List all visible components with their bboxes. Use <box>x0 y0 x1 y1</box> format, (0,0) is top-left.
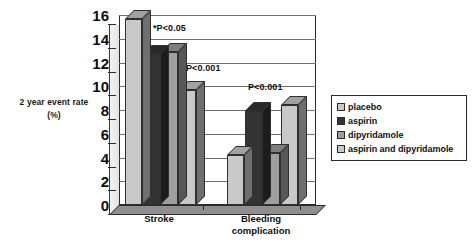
y-tick-mark <box>108 24 116 25</box>
y-tick-mark <box>108 143 116 144</box>
y-tick-mark <box>108 95 116 96</box>
bar-side-face <box>160 45 169 205</box>
bar-side-face <box>178 43 187 205</box>
y-tick-label: 10 <box>85 79 109 94</box>
bar-front-face <box>227 155 244 205</box>
p-value-annotation: P<0.001 <box>186 63 220 73</box>
y-tick-mark <box>108 119 116 120</box>
y-tick-label: 16 <box>85 8 109 23</box>
y-tick-mark <box>108 190 116 191</box>
y-tick-mark <box>108 214 116 215</box>
legend-swatch <box>337 145 345 153</box>
y-tick-mark <box>108 48 116 49</box>
chart-figure: 2 year event rate (%) 0246810121416 *P<0… <box>0 0 475 244</box>
y-tick-label: 8 <box>85 103 109 118</box>
legend-label: placebo <box>348 102 382 112</box>
bar-side-face <box>280 144 289 205</box>
bar-side-face <box>142 10 151 205</box>
plot-depth-wall <box>109 25 119 215</box>
y-tick-mark <box>108 72 116 73</box>
legend-swatch <box>337 131 345 139</box>
legend-swatch <box>337 117 345 125</box>
y-tick-label: 4 <box>85 151 109 166</box>
y-tick-label: 2 <box>85 174 109 189</box>
chart-legend: placeboaspirindipyridamoleaspirin and di… <box>331 95 467 161</box>
bar-side-face <box>298 96 307 205</box>
p-value-annotation: *P<0.05 <box>153 23 186 33</box>
legend-swatch <box>337 103 345 111</box>
plot-area <box>119 15 316 205</box>
x-category-label: Stroke <box>109 213 209 225</box>
legend-item: dipyridamole <box>337 128 462 142</box>
y-tick-label: 14 <box>85 32 109 47</box>
x-tick-mark <box>109 205 110 210</box>
x-tick-mark <box>300 205 301 210</box>
p-value-annotation: P<0.001 <box>248 82 282 92</box>
y-tick-label: 12 <box>85 56 109 71</box>
legend-item: aspirin and dipyridamole <box>337 142 462 156</box>
legend-item: aspirin <box>337 114 462 128</box>
y-axis-tick-labels: 0246810121416 <box>83 0 109 244</box>
bar-side-face <box>262 102 271 205</box>
y-tick-label: 0 <box>85 198 109 213</box>
x-category-label-line: Stroke <box>109 213 209 225</box>
x-category-label: Bleedingcomplication <box>211 213 311 237</box>
bar-side-face <box>244 146 253 205</box>
x-category-label-line: Bleeding <box>211 213 311 225</box>
legend-label: aspirin <box>348 116 377 126</box>
bar-front-face <box>125 19 142 205</box>
y-tick-label: 6 <box>85 127 109 142</box>
legend-label: dipyridamole <box>348 130 403 140</box>
y-tick-mark <box>108 167 116 168</box>
bar <box>227 155 244 205</box>
legend-label: aspirin and dipyridamole <box>348 144 453 154</box>
legend-item: placebo <box>337 100 462 114</box>
bar <box>125 19 142 205</box>
bar-side-face <box>196 81 205 205</box>
x-category-label-line: complication <box>211 225 311 237</box>
x-tick-mark <box>203 205 204 210</box>
